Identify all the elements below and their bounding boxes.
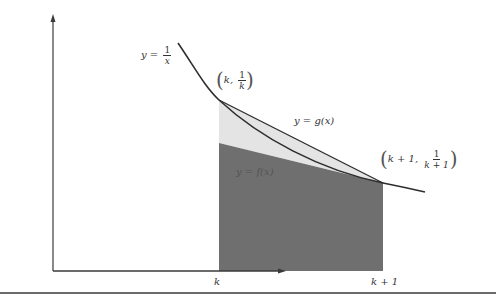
point-left-fraction: 1 k (238, 70, 246, 91)
point-left-label: (k, 1 k ) (216, 68, 254, 92)
x-axis-arrow-icon (278, 269, 286, 274)
point-right-num: 1 (433, 149, 441, 160)
curve-label-lhs: y = (141, 49, 158, 60)
point-right-x: k + 1, (388, 153, 418, 164)
curve-label-den: x (164, 56, 171, 66)
point-left-x: k (224, 74, 230, 85)
curve-label: y = 1 x (141, 45, 171, 66)
point-left-den: k (238, 81, 245, 91)
point-right-label: (k + 1, 1 k + 1 ) (380, 147, 458, 171)
x-tick-k: k (214, 276, 220, 287)
open-paren: ( (380, 147, 388, 171)
point-right-fraction: 1 k + 1 (423, 149, 449, 170)
curve-label-num: 1 (163, 45, 171, 56)
lower-label: y = f(x) (236, 166, 274, 177)
close-paren: ) (450, 147, 458, 171)
close-paren: ) (246, 68, 254, 92)
point-left-num: 1 (238, 70, 246, 81)
point-right-den: k + 1 (423, 160, 449, 170)
bottom-rule (0, 292, 496, 294)
open-paren: ( (216, 68, 224, 92)
secant-label: y = g(x) (294, 115, 334, 126)
curve-label-fraction: 1 x (163, 45, 171, 66)
x-tick-k-plus-1: k + 1 (371, 276, 398, 287)
